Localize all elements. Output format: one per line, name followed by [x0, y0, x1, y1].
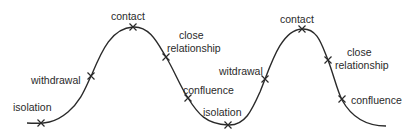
label-confluence-2: confluence [351, 95, 402, 106]
label-withdrawal-1: withdrawal [31, 75, 81, 86]
label-relationship-2: relationship [335, 60, 389, 71]
x-marker-icon [325, 57, 332, 64]
label-contact-2: contact [280, 14, 314, 25]
label-withdrawal-2: witdrawal [219, 66, 263, 77]
label-isolation-1: isolation [13, 102, 52, 113]
label-relationship-1: relationship [167, 43, 221, 54]
label-confluence-1: confluence [183, 85, 234, 96]
x-marker-icon [88, 73, 95, 80]
label-close-1: close [179, 30, 204, 41]
contact-cycle-diagram: isolationwithdrawalcontactcloserelations… [0, 0, 414, 140]
label-isolation-2: isolation [203, 107, 242, 118]
x-marker-icon [339, 96, 346, 103]
x-marker-icon [163, 54, 170, 61]
label-close-2: close [347, 47, 372, 58]
label-contact-1: contact [111, 11, 145, 22]
